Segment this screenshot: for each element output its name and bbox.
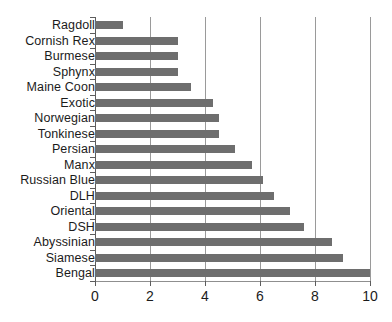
- bar-row: [95, 234, 370, 250]
- bar-row: [95, 33, 370, 49]
- x-axis-tick-label: 8: [311, 288, 319, 304]
- bar: [95, 21, 123, 29]
- x-axis-tick-label: 2: [146, 288, 154, 304]
- category-label: Sphynx: [53, 64, 95, 80]
- bar-row: [95, 141, 370, 157]
- bar: [95, 37, 178, 45]
- bar-row: [95, 126, 370, 142]
- category-label: Ragdoll: [52, 17, 95, 33]
- bar-row: [95, 48, 370, 64]
- bar-row: [95, 64, 370, 80]
- category-label: Oriental: [50, 203, 95, 219]
- bar-row: [95, 219, 370, 235]
- plot-area: [95, 17, 370, 281]
- bar: [95, 145, 235, 153]
- bar: [95, 52, 178, 60]
- bar: [95, 161, 252, 169]
- bar-row: [95, 110, 370, 126]
- category-label: DSH: [68, 219, 95, 235]
- x-axis-tick-label: 10: [362, 288, 378, 304]
- bar-row: [95, 203, 370, 219]
- horizontal-bar-chart: 0246810 RagdollCornish RexBurmeseSphynxM…: [0, 0, 392, 322]
- x-axis-tick: [315, 281, 316, 286]
- category-label: Russian Blue: [20, 172, 95, 188]
- category-label: Burmese: [44, 48, 95, 64]
- bar: [95, 192, 274, 200]
- bar: [95, 114, 219, 122]
- x-axis-tick: [370, 281, 371, 286]
- bar: [95, 254, 343, 262]
- bar-row: [95, 157, 370, 173]
- bar: [95, 207, 290, 215]
- bar-row: [95, 17, 370, 33]
- x-axis-line: [95, 281, 371, 282]
- bar: [95, 223, 304, 231]
- x-axis-tick: [95, 281, 96, 286]
- bar: [95, 269, 370, 277]
- category-label: Bengal: [55, 265, 95, 281]
- category-label: Maine Coon: [27, 79, 95, 95]
- x-axis-tick-label: 6: [256, 288, 264, 304]
- bar-row: [95, 95, 370, 111]
- category-label: Abyssinian: [34, 234, 95, 250]
- category-label: Tonkinese: [38, 126, 95, 142]
- x-axis-tick: [150, 281, 151, 286]
- bar: [95, 238, 332, 246]
- bar: [95, 83, 191, 91]
- bar: [95, 130, 219, 138]
- bar-row: [95, 172, 370, 188]
- bar-row: [95, 79, 370, 95]
- gridline: [370, 17, 371, 281]
- category-label: Cornish Rex: [25, 33, 95, 49]
- category-label: Norwegian: [34, 110, 95, 126]
- category-label: Persian: [52, 141, 95, 157]
- x-axis-tick-label: 0: [91, 288, 99, 304]
- x-axis-tick: [205, 281, 206, 286]
- bar: [95, 68, 178, 76]
- bar-row: [95, 188, 370, 204]
- category-label: Exotic: [60, 95, 95, 111]
- bar: [95, 99, 213, 107]
- category-label: DLH: [70, 188, 95, 204]
- bar-row: [95, 250, 370, 266]
- x-axis-tick: [260, 281, 261, 286]
- bar: [95, 176, 263, 184]
- bar-row: [95, 265, 370, 281]
- category-label: Siamese: [46, 250, 95, 266]
- x-axis-tick-label: 4: [201, 288, 209, 304]
- category-label: Manx: [64, 157, 95, 173]
